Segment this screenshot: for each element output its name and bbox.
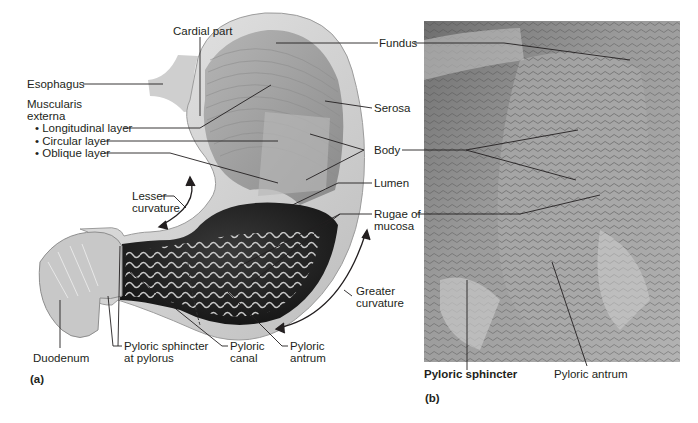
label-oblique-layer: • Oblique layer (35, 147, 110, 160)
dissection-photo (424, 21, 680, 362)
label-esophagus: Esophagus (27, 78, 85, 91)
label-greater-curvature-line2: curvature (356, 297, 404, 310)
stomach-diagram (0, 0, 698, 423)
label-rugae-line2: mucosa (374, 220, 414, 233)
label-duodenum: Duodenum (33, 352, 89, 365)
label-b-pyloric-sphincter: Pyloric sphincter (424, 368, 517, 381)
panel-b-letter: (b) (425, 392, 440, 404)
stomach-illustration (39, 13, 364, 340)
label-cardial-part: Cardial part (173, 25, 232, 38)
label-body: Body (374, 144, 400, 157)
label-pyloric-sphincter-line2: at pylorus (124, 352, 174, 365)
label-pyloric-canal-line2: canal (230, 352, 258, 365)
label-lumen: Lumen (374, 177, 409, 190)
label-pyloric-antrum-line2: antrum (290, 352, 326, 365)
label-serosa: Serosa (374, 102, 410, 115)
label-longitudinal-layer: • Longitudinal layer (35, 122, 132, 135)
label-fundus: Fundus (379, 37, 417, 50)
label-lesser-curvature-line2: curvature (132, 202, 180, 215)
label-b-pyloric-antrum: Pyloric antrum (554, 368, 628, 381)
panel-a-letter: (a) (30, 373, 44, 385)
